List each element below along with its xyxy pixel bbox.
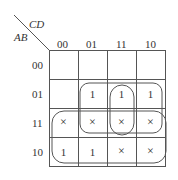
kmap-cell: 1	[136, 79, 165, 108]
kmap-cell	[136, 50, 165, 79]
kmap-cell: 1	[78, 79, 107, 108]
kmap-cell: ×	[107, 137, 136, 166]
kmap-cell: ×	[136, 108, 165, 137]
col-label: 11	[116, 38, 127, 50]
col-label: 10	[145, 38, 156, 50]
kmap-cell	[78, 50, 107, 79]
kmap-cell: 1	[49, 137, 78, 166]
row-label: 11	[32, 117, 43, 129]
row-variable-label: AB	[14, 31, 27, 43]
kmap-cell	[107, 50, 136, 79]
row-label: 00	[32, 59, 43, 71]
kmap-cell: 1	[107, 79, 136, 108]
col-label: 01	[86, 38, 97, 50]
col-label: 00	[57, 38, 68, 50]
col-variable-label: CD	[29, 18, 44, 30]
kmap-cell: ×	[78, 108, 107, 137]
kmap-cell: ×	[136, 137, 165, 166]
kmap-cell: ×	[49, 108, 78, 137]
row-label: 10	[32, 146, 43, 158]
kmap-cell	[49, 50, 78, 79]
kmap-cell: ×	[107, 108, 136, 137]
kmap-cell	[49, 79, 78, 108]
row-label: 01	[32, 88, 43, 100]
kmap-cell: 1	[78, 137, 107, 166]
